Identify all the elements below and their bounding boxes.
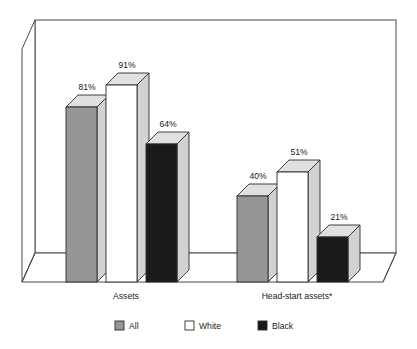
chart-container: 81% 91% 64% 40% 51% 21% Assets Head-star…: [0, 0, 417, 349]
bar-front-face: [237, 196, 268, 282]
value-label-assets-white: 91%: [118, 60, 136, 70]
legend-swatch-icon: [185, 321, 194, 330]
bar-headstart-all: [237, 184, 280, 282]
legend-item-all[interactable]: All: [115, 321, 139, 331]
legend-label: Black: [272, 321, 294, 331]
bar-front-face: [146, 144, 177, 282]
bar-chart-3d: 81% 91% 64% 40% 51% 21% Assets Head-star…: [0, 0, 417, 349]
value-label-assets-black: 64%: [159, 119, 177, 129]
legend-swatch-icon: [258, 321, 267, 330]
bar-headstart-white: [277, 160, 320, 282]
legend-item-white[interactable]: White: [185, 321, 221, 331]
legend-label: All: [129, 321, 139, 331]
bar-headstart-black: [317, 225, 360, 282]
legend-swatch-icon: [115, 321, 124, 330]
value-label-headstart-all: 40%: [249, 171, 267, 181]
bar-front-face: [66, 107, 97, 282]
bar-front-face: [277, 172, 308, 282]
bar-assets-all: [66, 95, 109, 282]
chart-legend: All White Black: [115, 321, 294, 331]
value-label-headstart-black: 21%: [330, 212, 348, 222]
bar-front-face: [317, 237, 348, 282]
value-label-assets-all: 81%: [78, 82, 96, 92]
value-label-headstart-white: 51%: [290, 147, 308, 157]
category-label-assets: Assets: [113, 291, 139, 301]
plot-left-wall: [22, 20, 35, 282]
legend-item-black[interactable]: Black: [258, 321, 294, 331]
bar-front-face: [106, 85, 137, 282]
category-label-headstart-assets: Head-start assets*: [262, 291, 333, 301]
bar-assets-black: [146, 132, 189, 282]
bar-side-face: [177, 132, 189, 282]
legend-label: White: [199, 321, 221, 331]
bar-assets-white: [106, 73, 149, 282]
